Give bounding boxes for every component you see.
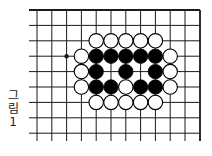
white-stone bbox=[104, 34, 118, 48]
stones bbox=[74, 34, 177, 110]
black-stone bbox=[133, 49, 147, 63]
star-points bbox=[64, 54, 68, 58]
black-stone bbox=[89, 49, 103, 63]
go-board-diagram bbox=[0, 0, 212, 156]
white-stone bbox=[163, 64, 177, 78]
white-stone bbox=[74, 64, 88, 78]
white-stone bbox=[133, 34, 147, 48]
white-stone bbox=[119, 80, 133, 94]
white-stone bbox=[163, 80, 177, 94]
black-stone bbox=[119, 49, 133, 63]
white-stone bbox=[133, 95, 147, 109]
white-stone bbox=[119, 95, 133, 109]
black-stone bbox=[133, 80, 147, 94]
white-stone bbox=[104, 95, 118, 109]
white-stone bbox=[89, 95, 103, 109]
white-stone bbox=[119, 34, 133, 48]
white-stone bbox=[74, 80, 88, 94]
black-stone bbox=[119, 64, 133, 78]
star-point bbox=[64, 54, 68, 58]
black-stone bbox=[148, 64, 162, 78]
black-stone bbox=[89, 80, 103, 94]
black-stone bbox=[89, 64, 103, 78]
white-stone bbox=[148, 34, 162, 48]
caption-char: 1 bbox=[6, 116, 20, 129]
white-stone bbox=[148, 95, 162, 109]
white-stone bbox=[163, 49, 177, 63]
white-stone bbox=[89, 34, 103, 48]
black-stone bbox=[148, 80, 162, 94]
white-stone bbox=[74, 49, 88, 63]
black-stone bbox=[148, 49, 162, 63]
black-stone bbox=[104, 49, 118, 63]
black-stone bbox=[104, 80, 118, 94]
figure-caption: 그 림 1 bbox=[6, 90, 20, 129]
